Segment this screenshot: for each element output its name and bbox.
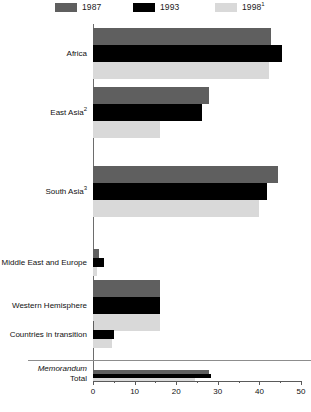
memorandum-heading: Memorandum	[0, 364, 87, 373]
legend-label-1993: 1993	[160, 3, 179, 12]
bar	[93, 267, 97, 276]
legend-item-1993: 1993	[133, 3, 179, 12]
bar-group: South Asia3	[0, 166, 311, 217]
x-tick-label: 20	[161, 387, 191, 396]
x-tick-minor	[114, 381, 115, 383]
bar	[93, 104, 202, 121]
bar	[93, 258, 104, 267]
bar	[93, 87, 209, 104]
x-tick-minor	[280, 381, 281, 383]
x-tick-label: 10	[120, 387, 150, 396]
legend-label-1998: 19981	[242, 3, 265, 12]
legend-item-1998: 19981	[215, 3, 265, 12]
bar	[93, 330, 114, 339]
x-tick	[259, 381, 260, 385]
x-axis: 01020304050	[0, 381, 311, 403]
legend-swatch-1987	[55, 3, 77, 12]
x-tick-label: 50	[286, 387, 311, 396]
category-label: Middle East and Europe	[0, 258, 87, 267]
chart-legend: 1987 1993 19981	[0, 3, 311, 19]
chart-plot-area: AfricaEast Asia2South Asia3Middle East a…	[0, 24, 311, 384]
x-tick-minor	[197, 381, 198, 383]
bar	[93, 249, 99, 258]
category-label: Africa	[0, 49, 87, 58]
bar	[93, 339, 112, 348]
legend-label-1987: 1987	[82, 3, 101, 12]
x-tick-minor	[239, 381, 240, 383]
bar	[93, 183, 267, 200]
category-label: Countries in transition	[0, 330, 87, 339]
legend-swatch-1993	[133, 3, 155, 12]
bar	[93, 280, 160, 297]
bar-group: Countries in transition	[0, 321, 311, 348]
x-tick	[301, 381, 302, 385]
bar	[93, 166, 278, 183]
bar	[93, 45, 282, 62]
bar-group: East Asia2	[0, 87, 311, 138]
legend-swatch-1998	[215, 3, 237, 12]
bar	[93, 200, 259, 217]
x-tick	[218, 381, 219, 385]
x-tick-minor	[155, 381, 156, 383]
legend-item-1987: 1987	[55, 3, 101, 12]
category-label: East Asia2	[0, 108, 87, 117]
category-label: Western Hemisphere	[0, 301, 87, 310]
bar-group: Africa	[0, 28, 311, 79]
bar	[93, 321, 94, 330]
chart-page: { "legend": { "items": [ { "label": "198…	[0, 0, 311, 412]
x-tick-label: 0	[78, 387, 108, 396]
x-tick	[135, 381, 136, 385]
x-tick-label: 40	[244, 387, 274, 396]
bar	[93, 297, 160, 314]
bar	[93, 121, 160, 138]
x-tick	[93, 381, 94, 385]
x-tick	[176, 381, 177, 385]
x-tick-label: 30	[203, 387, 233, 396]
bar	[93, 28, 271, 45]
bar-group: Middle East and Europe	[0, 249, 311, 276]
memorandum-rule	[28, 360, 311, 361]
bar	[93, 62, 269, 79]
category-label: South Asia3	[0, 187, 87, 196]
